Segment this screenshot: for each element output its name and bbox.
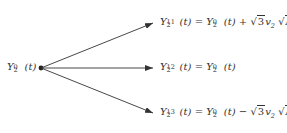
arrow-up — [41, 23, 153, 68]
arrow-down — [41, 68, 153, 113]
branch-label-up: Y112(t) = Y02(t) + √3v2 √Δt — [160, 16, 287, 29]
branch-label-down: Y132(t) = Y02(t) − √3v2 √Δt — [160, 106, 287, 119]
branch-label-middle: Y122(t) = Y02(t) — [160, 61, 236, 74]
root-label: Y02(t) — [7, 61, 36, 74]
